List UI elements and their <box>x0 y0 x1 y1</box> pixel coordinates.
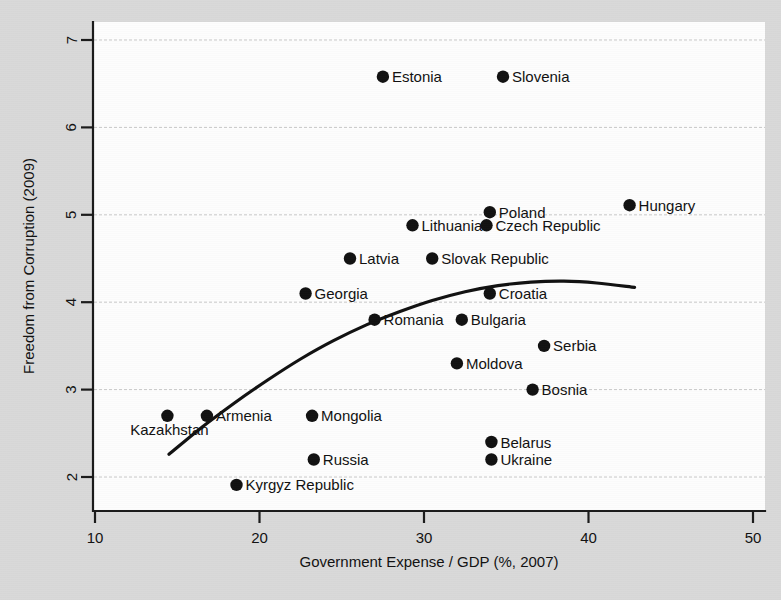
data-point-marker[interactable] <box>426 252 438 264</box>
data-point-label: Russia <box>323 451 370 468</box>
y-tick-label: 5 <box>63 211 80 219</box>
data-point-marker[interactable] <box>306 410 318 422</box>
data-point-marker[interactable] <box>485 436 497 448</box>
data-point-marker[interactable] <box>538 340 550 352</box>
x-axis-title: Government Expense / GDP (%, 2007) <box>299 553 558 570</box>
y-tick-label: 2 <box>63 473 80 481</box>
y-axis-title: Freedom from Corruption (2009) <box>20 158 37 374</box>
data-point-marker[interactable] <box>308 453 320 465</box>
data-point-label: Bosnia <box>542 381 589 398</box>
data-point-marker[interactable] <box>230 479 242 491</box>
figure-page: 234567 1020304050 EstoniaSloveniaHungary… <box>0 0 781 600</box>
data-point-label: Moldova <box>466 355 523 372</box>
data-point[interactable]: Slovak Republic <box>426 250 549 267</box>
data-point-marker[interactable] <box>368 314 380 326</box>
data-point-label: Croatia <box>499 285 548 302</box>
y-tick-label: 7 <box>63 36 80 44</box>
data-point-label: Slovenia <box>512 68 570 85</box>
data-point-marker[interactable] <box>497 71 509 83</box>
data-point-label: Kazakhstan <box>130 421 208 438</box>
data-point-label: Kyrgyz Republic <box>246 476 355 493</box>
y-axis-tick-labels: 234567 <box>63 36 80 481</box>
data-point-marker[interactable] <box>406 219 418 231</box>
data-point-marker[interactable] <box>456 314 468 326</box>
x-tick-label: 50 <box>745 529 762 546</box>
data-point-label: Mongolia <box>321 407 383 424</box>
scatter-chart: 234567 1020304050 EstoniaSloveniaHungary… <box>0 0 781 600</box>
data-point-label: Serbia <box>553 337 597 354</box>
data-point-marker[interactable] <box>623 199 635 211</box>
data-point-marker[interactable] <box>344 252 356 264</box>
data-point-label: Hungary <box>639 197 696 214</box>
y-tick-label: 4 <box>63 298 80 306</box>
y-tick-label: 6 <box>63 123 80 131</box>
y-axis-ticks <box>81 40 93 477</box>
x-axis-ticks <box>95 511 753 523</box>
data-point-label: Ukraine <box>500 451 552 468</box>
data-point-label: Belarus <box>500 434 551 451</box>
data-point-label: Lithuania <box>422 217 484 234</box>
x-tick-label: 10 <box>87 529 104 546</box>
x-tick-label: 30 <box>416 529 433 546</box>
data-point-marker[interactable] <box>299 287 311 299</box>
data-point[interactable]: Czech Republic <box>480 217 601 234</box>
x-axis-tick-labels: 1020304050 <box>87 529 762 546</box>
data-point-label: Bulgaria <box>471 311 527 328</box>
data-point-label: Estonia <box>392 68 443 85</box>
data-point-label: Latvia <box>359 250 400 267</box>
data-point-label: Romania <box>384 311 445 328</box>
x-tick-label: 40 <box>580 529 597 546</box>
data-point-label: Slovak Republic <box>441 250 549 267</box>
data-point[interactable]: Kyrgyz Republic <box>230 476 354 493</box>
data-point-marker[interactable] <box>484 206 496 218</box>
x-tick-label: 20 <box>251 529 268 546</box>
data-point-label: Czech Republic <box>496 217 602 234</box>
data-point-marker[interactable] <box>484 287 496 299</box>
data-point-label: Georgia <box>315 285 369 302</box>
data-point-marker[interactable] <box>377 71 389 83</box>
data-point-marker[interactable] <box>451 357 463 369</box>
data-point-marker[interactable] <box>485 453 497 465</box>
data-point-marker[interactable] <box>526 383 538 395</box>
data-point-label: Armenia <box>216 407 273 424</box>
y-tick-label: 3 <box>63 385 80 393</box>
